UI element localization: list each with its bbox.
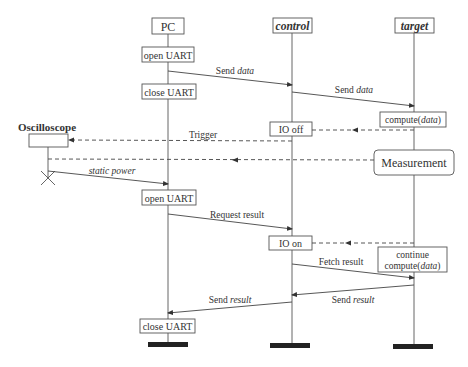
oscilloscope-label: Oscilloscope [18,121,76,133]
message-target-to-io-off [312,128,414,133]
svg-text:compute(data): compute(data) [385,115,441,126]
svg-text:Send result: Send result [209,295,252,305]
svg-text:close UART: close UART [144,87,194,98]
control-end-bar [270,343,310,348]
pc-close-uart-2: close UART [140,319,195,333]
target-compute: compute(data) [380,112,446,127]
message-target-to-io-on [312,241,414,246]
message-static-power: static power [48,166,168,184]
lifeline-target: target [393,18,434,349]
target-continue-compute: continue compute(data) [378,247,447,272]
control-io-on: IO on [269,236,312,250]
target-measurement: Measurement [374,150,454,175]
svg-text:Fetch result: Fetch result [319,257,364,267]
lifeline-target-label: target [401,20,429,33]
svg-text:Send data: Send data [216,66,255,76]
pc-end-bar [148,342,188,347]
lifeline-oscilloscope: Oscilloscope [18,121,76,185]
message-trigger: Trigger [68,130,292,143]
message-send-result-control-pc: Send result [168,295,292,313]
svg-text:compute(data): compute(data) [385,261,441,272]
message-measurement [48,158,374,163]
pc-open-uart-1: open UART [142,47,194,62]
lifeline-control-label: control [276,20,311,32]
lifeline-pc-label: PC [161,20,176,34]
svg-text:open UART: open UART [144,50,193,61]
sequence-diagram: PC control target Oscilloscope open UART… [0,0,468,367]
message-send-result-target-control: Send result [292,285,414,305]
lifeline-control: control [270,18,312,348]
svg-text:close UART: close UART [143,321,193,332]
svg-text:IO off: IO off [279,124,304,135]
message-send-data-pc-control: Send data [168,66,292,85]
message-send-data-control-target: Send data [292,85,414,106]
pc-close-uart-1: close UART [142,84,196,99]
svg-text:Trigger: Trigger [189,130,218,140]
message-request-result: Request result [168,210,292,229]
svg-text:Request result: Request result [210,210,264,220]
svg-text:static power: static power [89,166,136,176]
svg-text:IO on: IO on [279,238,302,249]
svg-text:Send data: Send data [335,85,374,95]
svg-text:continue: continue [396,250,429,260]
target-end-bar [393,344,433,349]
control-io-off: IO off [270,122,312,136]
svg-text:Send result: Send result [332,295,375,305]
svg-text:Measurement: Measurement [381,156,447,170]
pc-open-uart-2: open UART [142,190,196,205]
svg-text:open UART: open UART [145,193,194,204]
